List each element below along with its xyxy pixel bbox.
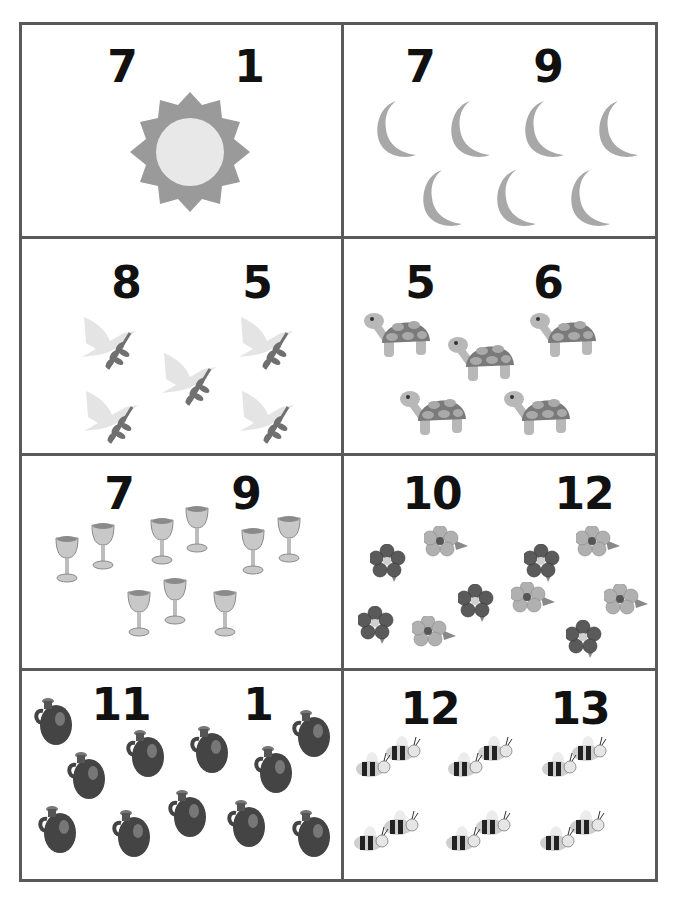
moon-icon <box>520 99 566 159</box>
goblet-icon <box>126 588 152 638</box>
flower-icon <box>524 544 562 584</box>
flower-icon <box>424 526 470 558</box>
number-option-left[interactable]: 7 <box>107 45 137 89</box>
number-option-right[interactable]: 9 <box>533 45 563 89</box>
card-goblets: 7 9 <box>22 456 341 668</box>
goblet-icon <box>212 588 238 638</box>
flower-icon <box>604 584 650 616</box>
moon-icon <box>418 168 464 228</box>
bee-pair-icon <box>446 731 516 779</box>
flower-icon <box>412 616 458 648</box>
flower-icon <box>370 544 408 584</box>
card-doves: 8 5 <box>22 239 341 453</box>
dove-icon <box>82 387 144 447</box>
goblet-icon <box>276 514 302 564</box>
jug-icon <box>254 745 294 795</box>
number-option-right[interactable]: 6 <box>533 261 563 305</box>
dove-icon <box>237 313 299 373</box>
bee-pair-icon <box>444 805 514 853</box>
number-option-right[interactable]: 5 <box>242 261 272 305</box>
turtle-icon <box>398 387 470 439</box>
moon-icon <box>492 168 538 228</box>
number-option-right[interactable]: 12 <box>554 472 613 516</box>
jug-icon <box>292 709 332 759</box>
goblet-icon <box>184 504 210 554</box>
bee-pair-icon <box>538 805 608 853</box>
number-option-left[interactable]: 7 <box>405 45 435 89</box>
number-option-right[interactable]: 1 <box>234 45 264 89</box>
card-turtles: 5 6 <box>344 239 658 453</box>
turtle-icon <box>502 387 574 439</box>
jug-icon <box>38 805 78 855</box>
number-option-right[interactable]: 9 <box>231 472 261 516</box>
jug-icon <box>126 729 166 779</box>
number-option-left[interactable]: 5 <box>405 261 435 305</box>
bee-pair-icon <box>354 731 424 779</box>
number-option-left[interactable]: 10 <box>402 472 461 516</box>
dove-icon <box>160 349 222 409</box>
card-flowers: 10 12 <box>344 456 658 668</box>
flower-icon <box>458 584 496 624</box>
jug-icon <box>168 789 208 839</box>
goblet-icon <box>54 534 80 584</box>
jug-icon <box>292 809 332 859</box>
sun-icon <box>125 90 255 215</box>
jug-icon <box>190 725 230 775</box>
number-option-left[interactable]: 12 <box>400 687 459 731</box>
flower-icon <box>576 526 622 558</box>
card-jugs: 11 1 <box>22 671 341 882</box>
flower-icon <box>358 606 396 646</box>
jug-icon <box>34 697 74 747</box>
worksheet-grid: 7 1 7 9 8 5 5 6 <box>19 22 658 882</box>
goblet-icon <box>240 526 266 576</box>
turtle-icon <box>362 309 434 361</box>
goblet-icon <box>162 576 188 626</box>
dove-icon <box>238 387 300 447</box>
goblet-icon <box>90 521 116 571</box>
flower-icon <box>511 582 557 614</box>
flower-icon <box>566 620 604 660</box>
turtle-icon <box>446 333 518 385</box>
number-option-right[interactable]: 1 <box>243 683 273 727</box>
number-option-left[interactable]: 11 <box>91 683 150 727</box>
number-option-right[interactable]: 13 <box>550 687 609 731</box>
jug-icon <box>227 799 267 849</box>
bee-pair-icon <box>352 805 422 853</box>
jug-icon <box>67 751 107 801</box>
jug-icon <box>112 809 152 859</box>
card-sun: 7 1 <box>22 25 341 236</box>
moon-icon <box>372 99 418 159</box>
card-bees: 12 13 <box>344 671 658 882</box>
dove-icon <box>80 313 142 373</box>
number-option-left[interactable]: 7 <box>104 472 134 516</box>
moon-icon <box>446 99 492 159</box>
goblet-icon <box>149 516 175 566</box>
number-option-left[interactable]: 8 <box>111 261 141 305</box>
turtle-icon <box>528 309 600 361</box>
moon-icon <box>566 168 612 228</box>
moon-icon <box>594 99 640 159</box>
bee-pair-icon <box>540 731 610 779</box>
card-moons: 7 9 <box>344 25 658 236</box>
